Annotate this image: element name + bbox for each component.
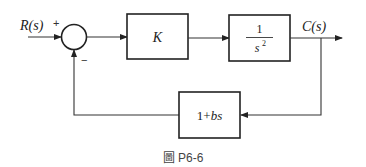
plant-numerator: 1 <box>257 22 263 36</box>
block-diagram: R(s) + − K 1 s 2 C(s) 1+bs <box>0 0 366 167</box>
plant-block: 1 s 2 <box>229 15 290 61</box>
plus-sign: + <box>53 17 59 29</box>
output-signal: C(s) <box>290 19 342 38</box>
feedback-label-plus: + <box>203 108 210 123</box>
input-label: R(s) <box>19 18 44 34</box>
output-label: C(s) <box>302 19 326 35</box>
caption-number: P6-6 <box>178 151 204 165</box>
caption-prefix: 圖 <box>163 151 175 165</box>
feedback-block: 1+bs <box>179 92 240 138</box>
minus-sign: − <box>81 54 87 66</box>
controller-label: K <box>152 30 163 45</box>
controller-block: K <box>127 14 188 59</box>
plant-denominator-base: s <box>255 41 260 55</box>
feedback-label: 1+bs <box>197 108 222 123</box>
feedback-label-var: bs <box>211 108 223 123</box>
figure-caption: 圖 P6-6 <box>163 151 204 165</box>
plant-denominator-exponent: 2 <box>262 39 266 48</box>
summing-junction-circle <box>62 25 87 50</box>
summing-junction: + − <box>53 17 87 66</box>
